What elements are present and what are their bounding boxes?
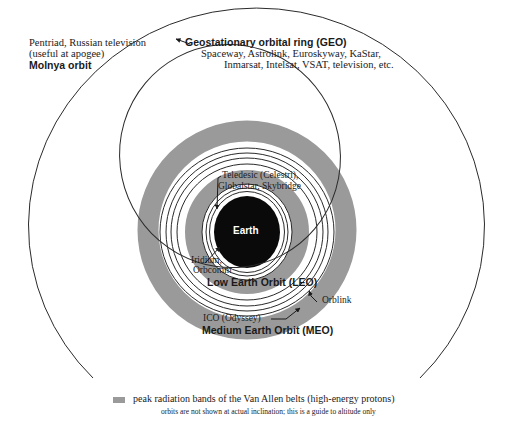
leo-label: Low Earth Orbit (LEO)	[207, 277, 317, 288]
molnya-systems-line1: Pentriad, Russian television	[29, 38, 146, 49]
meo-orblink-label: Orblink	[322, 296, 352, 306]
meo-ico-label: ICO (Odyssey)	[203, 314, 261, 324]
legend-label: peak radiation bands of the Van Allen be…	[133, 394, 395, 404]
meo-label: Medium Earth Orbit (MEO)	[202, 325, 333, 336]
geo-systems-line2: Inmarsat, Intelsat, VSAT, television, et…	[224, 60, 394, 71]
leo-iridium-line2: Orbcomm	[193, 266, 232, 276]
legend-swatch	[113, 397, 125, 403]
leo-teledesic-line2: Globalstar, Skybridge	[218, 182, 301, 192]
molnya-systems-line2: (useful at apogee)	[29, 49, 104, 60]
leo-teledesic-line1: Teledesic (Celestri),	[222, 171, 298, 181]
earth-label: Earth	[233, 226, 259, 236]
molnya-label: Molnya orbit	[29, 60, 91, 71]
legend-note: orbits are not shown at actual inclinati…	[161, 408, 376, 416]
geo-systems-line1: Spaceway, Astrolink, Euroskyway, KaStar,	[201, 49, 381, 60]
geo-label: Geostationary orbital ring (GEO)	[185, 37, 347, 48]
orbit-diagram: Geostationary orbital ring (GEO) Spacewa…	[0, 0, 509, 426]
